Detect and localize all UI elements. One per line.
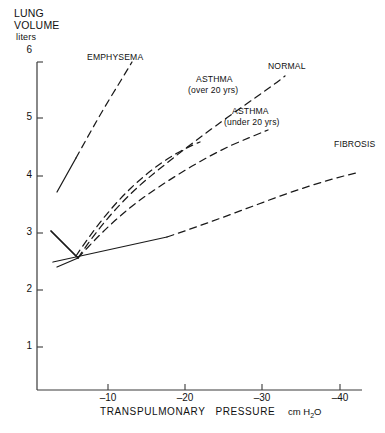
x-axis-units: cm H2O — [288, 406, 321, 419]
chart-canvas — [0, 0, 385, 433]
x-tick-label-minus20: –20 — [170, 392, 200, 403]
curve-asthma-over-dashed — [76, 142, 200, 256]
curve-label-asthma-over-line2: (over 20 yrs) — [188, 85, 238, 95]
y-tick-label-2: 2 — [16, 283, 32, 294]
curve-normal-dashed — [78, 76, 285, 258]
curve-label-asthma-under-line1: ASTHMA — [232, 106, 269, 116]
x-axis-title: TRANSPULMONARY PRESSURE — [100, 406, 275, 417]
x-tick-label-minus30: –30 — [247, 392, 277, 403]
x-axis-ticks — [108, 384, 340, 390]
y-axis-ticks — [37, 62, 43, 347]
curve-fibrosis-dashed — [167, 173, 356, 237]
x-tick-label-minus40: –40 — [325, 392, 355, 403]
curve-asthma-under-dashed — [78, 130, 268, 258]
curve-label-fibrosis: FIBROSIS — [334, 139, 375, 149]
curve-label-emphysema: EMPHYSEMA — [87, 52, 143, 62]
axis-lines — [37, 62, 362, 390]
curve-emphysema-solid — [57, 158, 76, 192]
y-tick-label-3: 3 — [16, 226, 32, 237]
y-axis-title-line2: VOLUME — [14, 20, 60, 32]
y-tick-label-5: 5 — [16, 111, 32, 122]
y-axis-title-line1: LUNG — [14, 8, 44, 20]
x-tick-label-minus10: –10 — [93, 392, 123, 403]
x-axis-units-prefix: cm H — [288, 406, 310, 417]
y-tick-label-6: 6 — [16, 44, 32, 55]
curve-normal-solid — [51, 231, 78, 258]
curve-label-normal: NORMAL — [268, 61, 306, 71]
y-tick-label-4: 4 — [16, 169, 32, 180]
lung-volume-pressure-chart: LUNG VOLUME liters 6 5 4 3 2 1 –10 –20 –… — [0, 0, 385, 433]
curve-label-asthma-under-line2: (under 20 yrs) — [224, 117, 280, 127]
y-axis-units: liters — [16, 32, 36, 44]
curve-label-asthma-over-line1: ASTHMA — [196, 74, 233, 84]
x-axis-units-suffix: O — [314, 406, 321, 417]
y-tick-label-1: 1 — [16, 340, 32, 351]
curve-emphysema-dashed — [76, 62, 132, 158]
